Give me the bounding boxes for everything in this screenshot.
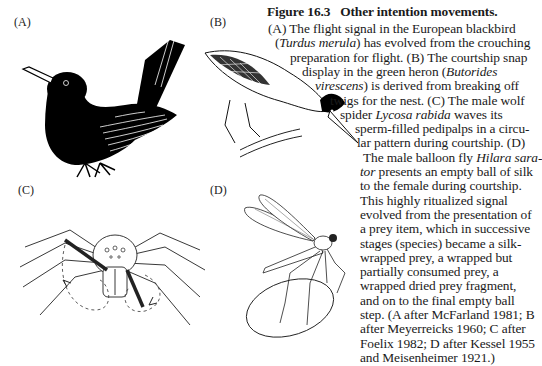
panel-label-d: (D) — [210, 183, 227, 198]
panel-label-b: (B) — [210, 15, 226, 30]
caption-line: and Meisenheimer 1921.) — [360, 349, 495, 366]
blackbird-illustration — [15, 15, 190, 180]
figure-number: Figure 16.3 — [267, 4, 330, 19]
wolf-spider-illustration — [15, 225, 210, 340]
figure-title: Other intention movements. — [340, 4, 497, 19]
panel-label-c: (C) — [18, 183, 34, 198]
caption-text: and Meisenheimer 1921.) — [360, 350, 495, 365]
caption-title-line: Figure 16.3 Other intention movements. — [267, 3, 498, 20]
balloon-fly-illustration — [235, 183, 355, 343]
